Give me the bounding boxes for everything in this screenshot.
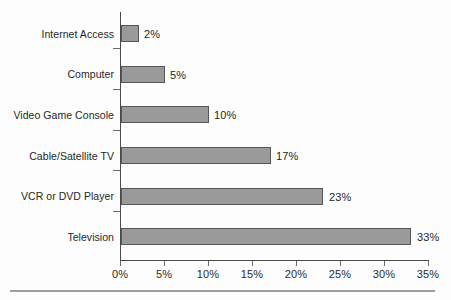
x-axis-line xyxy=(120,260,429,261)
category-label: VCR or DVD Player xyxy=(21,190,114,202)
y-axis-tick xyxy=(113,211,120,212)
category-label: Cable/Satellite TV xyxy=(29,150,114,162)
x-axis-tick-label: 20% xyxy=(285,268,307,280)
y-axis-tick xyxy=(113,48,120,49)
bar-internet-access xyxy=(121,25,139,42)
x-axis-tick-label: 0% xyxy=(112,268,128,280)
category-label: Video Game Console xyxy=(13,109,114,121)
bar-value-label: 2% xyxy=(144,28,160,40)
y-axis-tick xyxy=(113,170,120,171)
category-label: Television xyxy=(67,231,114,243)
y-axis-line xyxy=(120,12,121,261)
bar-value-label: 10% xyxy=(214,109,236,121)
bar-value-label: 17% xyxy=(276,150,298,162)
x-axis-tick-label: 25% xyxy=(329,268,351,280)
x-axis-tick-label: 10% xyxy=(197,268,219,280)
bar-value-label: 23% xyxy=(329,191,351,203)
bar-value-label: 5% xyxy=(170,69,186,81)
y-axis-tick xyxy=(113,89,120,90)
x-axis-tick xyxy=(252,261,253,266)
category-label: Internet Access xyxy=(41,28,114,40)
bar-computer xyxy=(121,66,165,83)
bar-chart: Internet Access Computer Video Game Cons… xyxy=(0,0,451,300)
x-axis-tick xyxy=(208,261,209,266)
x-axis-tick-label: 35% xyxy=(417,268,439,280)
x-axis-tick xyxy=(340,261,341,266)
bar-television xyxy=(121,228,411,245)
x-axis-tick-label: 5% xyxy=(156,268,172,280)
bar-value-label: 33% xyxy=(417,231,439,243)
x-axis-tick-label: 15% xyxy=(241,268,263,280)
x-axis-tick xyxy=(120,261,121,266)
bar-video-game-console xyxy=(121,106,209,123)
x-axis-tick xyxy=(296,261,297,266)
x-axis-tick xyxy=(164,261,165,266)
x-axis-tick-label: 30% xyxy=(373,268,395,280)
bar-vcr-or-dvd-player xyxy=(121,188,323,205)
page-divider-rule xyxy=(10,290,435,292)
x-axis-tick xyxy=(428,261,429,266)
category-label: Computer xyxy=(67,68,114,80)
x-axis-tick xyxy=(384,261,385,266)
bar-cable-satellite-tv xyxy=(121,147,271,164)
y-axis-tick xyxy=(113,130,120,131)
